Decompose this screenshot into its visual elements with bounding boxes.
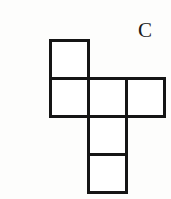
cube-net-figure: C <box>0 0 171 199</box>
option-label-c: C <box>138 20 152 41</box>
square-middle-right <box>126 78 164 116</box>
square-lower <box>88 116 126 154</box>
square-bottom <box>88 154 126 192</box>
square-middle-center <box>88 78 126 116</box>
square-middle-left <box>50 78 88 116</box>
square-top <box>50 40 88 78</box>
